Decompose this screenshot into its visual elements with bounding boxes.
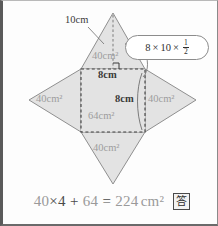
- callout-fraction-denominator: 2: [183, 48, 189, 56]
- final-equation: 40×4 + 64 = 224cm²: [34, 193, 165, 210]
- equation-part-3: 64: [83, 193, 99, 209]
- equation-mult: ×: [49, 193, 58, 209]
- right-triangle-face: [145, 69, 196, 132]
- answer-badge: 答: [173, 193, 190, 210]
- callout-times-2: ×: [173, 42, 179, 53]
- answer-row: 40×4 + 64 = 224cm² 答: [3, 193, 218, 210]
- bottom-triangle-face: [81, 132, 145, 184]
- left-triangle-face: [29, 69, 81, 132]
- equation-result: 224: [115, 193, 138, 209]
- equation-plus: +: [70, 193, 79, 209]
- equation-part-2: 4: [58, 193, 66, 209]
- equation-part-1: 40: [34, 193, 50, 209]
- square-base-face: [81, 69, 145, 132]
- callout-times-1: ×: [153, 42, 159, 53]
- worksheet-page: 10cm 40cm² 8cm 40cm² 8cm 40cm² 64cm² 40c…: [0, 0, 218, 226]
- equation-unit: cm²: [141, 193, 165, 209]
- callout-factor-b: 10: [160, 42, 171, 53]
- callout-fraction: 1 2: [183, 39, 189, 55]
- equation-equals: =: [102, 193, 111, 209]
- formula-callout: 8 × 10 × 1 2: [125, 35, 209, 60]
- callout-factor-a: 8: [145, 42, 150, 53]
